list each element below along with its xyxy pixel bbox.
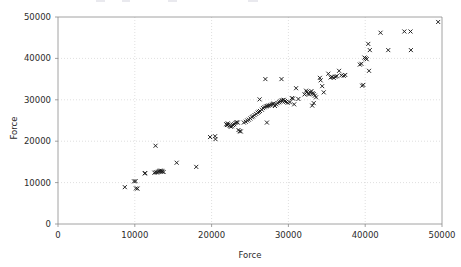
x-tick-label: 50000 <box>428 230 455 240</box>
y-tick-label: 30000 <box>24 95 51 105</box>
data-point <box>409 29 413 33</box>
data-point <box>322 90 326 94</box>
cropped-title-remnant <box>96 0 258 2</box>
y-tick-label: 10000 <box>24 178 51 188</box>
data-point <box>320 84 324 88</box>
data-point <box>265 121 269 125</box>
data-point <box>359 62 363 66</box>
data-point <box>194 165 198 169</box>
data-point <box>367 69 371 73</box>
data-point <box>368 48 372 52</box>
data-point <box>279 77 283 81</box>
y-axis-ticks: 01000020000300004000050000 <box>24 12 58 229</box>
data-point <box>314 95 318 99</box>
x-axis-ticks: 01000020000300004000050000 <box>55 224 455 240</box>
data-point <box>409 48 413 52</box>
data-point <box>402 29 406 33</box>
chart-figure: 01000020000300004000050000 0100002000030… <box>0 0 461 267</box>
data-point <box>379 31 383 35</box>
x-tick-label: 30000 <box>275 230 302 240</box>
x-tick-label: 20000 <box>198 230 225 240</box>
data-point <box>436 20 440 24</box>
x-tick-label: 0 <box>55 230 60 240</box>
data-point <box>123 185 127 189</box>
y-tick-label: 40000 <box>24 53 51 63</box>
scatter-plot-canvas: 01000020000300004000050000 0100002000030… <box>0 0 461 267</box>
data-point <box>337 69 341 73</box>
y-tick-label: 0 <box>46 219 51 229</box>
data-point <box>263 77 267 81</box>
y-tick-label: 50000 <box>24 12 51 22</box>
x-tick-label: 40000 <box>352 230 379 240</box>
data-point <box>366 42 370 46</box>
x-tick-label: 10000 <box>121 230 148 240</box>
data-point <box>175 161 179 165</box>
data-point <box>258 97 262 101</box>
data-point-series <box>123 20 440 191</box>
data-point <box>292 102 296 106</box>
data-point <box>213 137 217 141</box>
x-axis-title: Force <box>239 250 262 260</box>
y-axis-title: Force <box>9 117 19 140</box>
y-tick-label: 20000 <box>24 136 51 146</box>
data-point <box>294 86 298 90</box>
data-point <box>326 72 330 76</box>
data-point <box>154 144 158 148</box>
data-point <box>343 73 347 77</box>
data-point <box>296 97 300 101</box>
data-point <box>386 48 390 52</box>
